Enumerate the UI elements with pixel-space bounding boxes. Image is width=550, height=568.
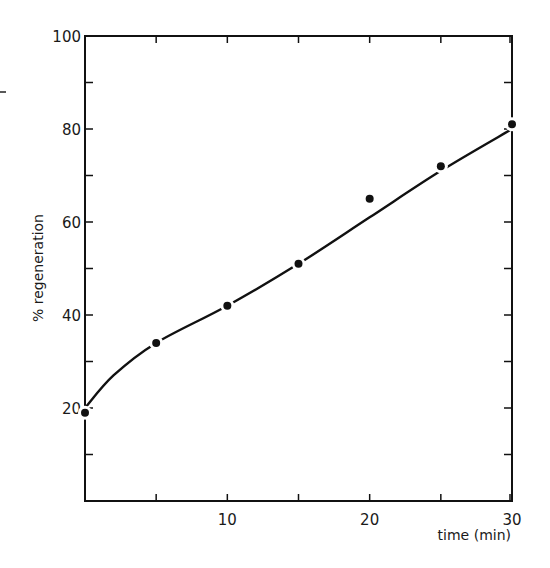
x-axis-label: time (min) <box>438 527 511 543</box>
y-tick-label: 40 <box>62 307 81 325</box>
y-tick-label: 60 <box>62 214 81 232</box>
data-point <box>152 339 160 347</box>
x-tick-label: 10 <box>218 511 237 529</box>
data-point <box>295 260 303 268</box>
data-point <box>223 302 231 310</box>
data-point <box>366 195 374 203</box>
tick-labels: 10203020406080100 <box>52 28 521 529</box>
data-point <box>508 120 516 128</box>
data-point <box>437 162 445 170</box>
y-tick-label: 100 <box>52 28 81 46</box>
x-tick-label: 20 <box>360 511 379 529</box>
y-tick-label: 80 <box>62 121 81 139</box>
y-axis-label: % regeneration <box>30 214 46 322</box>
y-tick-label: 20 <box>62 400 81 418</box>
regeneration-chart: 10203020406080100 time (min) % regenerat… <box>0 0 550 568</box>
data-point <box>81 409 89 417</box>
